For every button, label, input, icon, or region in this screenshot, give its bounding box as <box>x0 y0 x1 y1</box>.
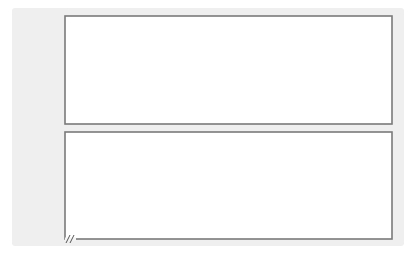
gnrh-plot-frame <box>65 132 392 239</box>
gnrh-panel <box>65 132 392 243</box>
lh-panel <box>65 16 392 124</box>
figure <box>0 0 411 279</box>
lh-plot-frame <box>65 16 392 124</box>
